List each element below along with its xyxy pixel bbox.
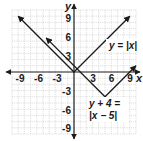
x-tick-label: -9: [16, 73, 25, 84]
y-tick-label: -9: [62, 123, 71, 134]
y-tick-label: -3: [62, 86, 71, 97]
y-tick-label: 3: [65, 51, 71, 62]
x-axis-label: x: [135, 72, 143, 84]
y-axis-label: y: [64, 0, 72, 12]
y-tick-labels: 9 6 3 -3 -6 -9: [62, 13, 71, 134]
x-tick-label: -3: [53, 73, 62, 84]
y-tick-label: -6: [62, 105, 71, 116]
x-tick-label: 3: [90, 73, 96, 84]
y-tick-label: 9: [65, 13, 71, 24]
y-tick-label: 6: [65, 32, 71, 43]
coordinate-graph: -9 -6 -3 3 6 9 9 6 3 -3 -6 -9 x y y = |x…: [0, 0, 143, 141]
equation-label-shifted-line2: |x − 5|: [89, 110, 117, 121]
x-tick-label: 6: [109, 73, 115, 84]
equation-label-shifted-line1: y + 4 =: [88, 98, 120, 109]
x-tick-label: -6: [34, 73, 43, 84]
x-tick-label: 9: [127, 73, 133, 84]
equation-label-y-abs-x: y = |x|: [108, 40, 137, 51]
